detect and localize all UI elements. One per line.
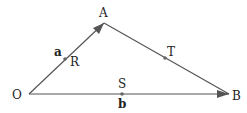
label-s-point: S xyxy=(118,77,126,91)
label-r-point: R xyxy=(70,55,80,69)
label-vector-a: a xyxy=(54,45,62,59)
label-a-point: A xyxy=(98,6,108,20)
vector-triangle-diagram: A O B R S T a b xyxy=(0,0,247,113)
point-r xyxy=(63,57,67,61)
label-b-point: B xyxy=(232,89,241,103)
point-s xyxy=(120,92,124,96)
label-vector-b: b xyxy=(118,97,126,111)
label-t-point: T xyxy=(167,45,175,59)
label-o-point: O xyxy=(12,88,22,102)
